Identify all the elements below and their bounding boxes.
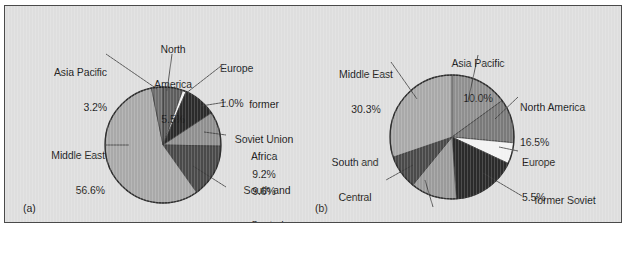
panel-tag-a: (a) <box>23 202 36 214</box>
label-north-america-a-name2: America <box>137 79 209 91</box>
label-fsu-b-name1: former Soviet <box>517 195 613 207</box>
label-asia-pacific-a: Asia Pacific 3.2% <box>19 44 107 137</box>
label-north-america-a-name1: North <box>137 44 209 56</box>
label-asia-pacific-a-value: 3.2% <box>19 102 107 114</box>
label-former-soviet-union-b: former Soviet Union 16.9% <box>517 172 613 223</box>
label-sca-b-name2: Central <box>319 192 391 204</box>
figure-page: Asia Pacific 3.2% North America 5.5% Eur… <box>0 0 630 256</box>
label-asia-pacific-b-value: 10.0% <box>431 93 525 105</box>
pie-chart-panel-b: Asia Pacific 10.0% Middle East 30.3% Nor… <box>313 6 622 222</box>
label-middle-east-a-name: Middle East <box>15 150 105 162</box>
label-middle-east-b-name: Middle East <box>321 69 411 81</box>
label-south-and-central-america-b: South and Central America 8.9% <box>319 134 391 223</box>
label-north-america-a-value: 5.5% <box>137 114 209 126</box>
label-middle-east-b: Middle East 30.3% <box>321 46 411 139</box>
label-fsu-a-name1: former <box>221 99 307 111</box>
label-asia-pacific-a-name: Asia Pacific <box>19 67 107 79</box>
label-sca-b-name1: South and <box>319 157 391 169</box>
label-sca-a-name1: South and <box>227 185 307 197</box>
panel-tag-b: (b) <box>315 202 328 214</box>
label-sca-a-name2: Central <box>227 220 307 223</box>
label-north-america-a: North America 5.5% <box>137 21 209 149</box>
pie-chart-panel-a: Asia Pacific 3.2% North America 5.5% Eur… <box>5 6 314 222</box>
label-asia-pacific-b: Asia Pacific 10.0% <box>431 35 525 128</box>
label-africa-b: Africa 12.0% <box>401 200 465 223</box>
label-south-and-central-america-a: South and Central America 14.9% <box>227 162 307 223</box>
label-europe-a-name: Europe <box>220 63 300 75</box>
label-europe-b-name: Europe <box>522 157 602 169</box>
label-middle-east-a-value: 56.6% <box>15 185 105 197</box>
label-middle-east-b-value: 30.3% <box>321 104 411 116</box>
label-north-america-b-name: North America <box>520 102 616 114</box>
figure-frame: Asia Pacific 3.2% North America 5.5% Eur… <box>4 5 622 223</box>
label-asia-pacific-b-name: Asia Pacific <box>431 58 525 70</box>
